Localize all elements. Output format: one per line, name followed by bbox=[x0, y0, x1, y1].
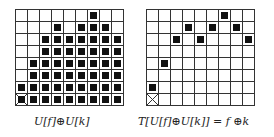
grid-cell-filled bbox=[183, 22, 195, 34]
grid-cell-filled bbox=[88, 46, 100, 58]
grid-cell bbox=[52, 10, 64, 22]
grid-cell bbox=[112, 10, 124, 22]
grid-cell bbox=[159, 46, 171, 58]
grid-cell-filled bbox=[100, 82, 112, 94]
grid-cell-filled bbox=[112, 58, 124, 70]
grid-cell bbox=[171, 22, 183, 34]
grid-cell bbox=[112, 22, 124, 34]
grid-cell-filled bbox=[76, 58, 88, 70]
grid-cell bbox=[195, 22, 207, 34]
grid-cell bbox=[207, 70, 219, 82]
grid-cell bbox=[183, 46, 195, 58]
grid-cell-filled bbox=[88, 70, 100, 82]
grid-cell bbox=[207, 82, 219, 94]
grid-cell bbox=[183, 70, 195, 82]
grid-cell-filled bbox=[88, 34, 100, 46]
grid-cell-filled bbox=[28, 94, 40, 106]
grid-cell bbox=[207, 94, 219, 106]
grid-cell bbox=[219, 58, 231, 70]
grid-cell bbox=[147, 46, 159, 58]
grid-cell bbox=[159, 34, 171, 46]
grid-cell bbox=[147, 58, 159, 70]
grid-cell bbox=[171, 46, 183, 58]
grid-cell bbox=[159, 22, 171, 34]
grid-cell-crossed bbox=[147, 94, 159, 106]
grid-cell bbox=[16, 22, 28, 34]
grid-cell bbox=[195, 46, 207, 58]
cross-mark-icon bbox=[147, 94, 158, 105]
grid-cell-filled bbox=[52, 46, 64, 58]
grid-cell-filled bbox=[159, 58, 171, 70]
grid-cell-filled bbox=[40, 58, 52, 70]
grid-cell bbox=[195, 58, 207, 70]
grid-cell-filled bbox=[52, 70, 64, 82]
grid-cell-filled bbox=[64, 34, 76, 46]
grid-cell bbox=[183, 58, 195, 70]
grid-cell-filled bbox=[52, 22, 64, 34]
grid-cell-filled bbox=[64, 46, 76, 58]
grid-cell bbox=[171, 58, 183, 70]
grid-cell bbox=[16, 70, 28, 82]
grid-cell bbox=[159, 94, 171, 106]
grid-cell-filled bbox=[171, 34, 183, 46]
grid-cell bbox=[16, 46, 28, 58]
grid-cell bbox=[231, 58, 243, 70]
grid-cell-filled bbox=[16, 82, 28, 94]
grid-cell-filled bbox=[28, 82, 40, 94]
grid-cell-filled bbox=[88, 94, 100, 106]
grid-cell bbox=[243, 70, 255, 82]
grid-cell-filled bbox=[100, 22, 112, 34]
grid-cell-filled bbox=[40, 34, 52, 46]
grid-cell bbox=[231, 82, 243, 94]
grid-cell bbox=[219, 94, 231, 106]
grid-cell bbox=[231, 10, 243, 22]
grid-cell bbox=[159, 82, 171, 94]
grid-cell-filled bbox=[112, 94, 124, 106]
grid-cell bbox=[231, 94, 243, 106]
grid-cell-filled bbox=[195, 34, 207, 46]
grid-cell bbox=[171, 82, 183, 94]
grid-cell-filled bbox=[88, 22, 100, 34]
grid-cell-filled bbox=[112, 70, 124, 82]
grid-cell bbox=[64, 22, 76, 34]
grid-cell bbox=[243, 58, 255, 70]
grid-cell bbox=[171, 70, 183, 82]
grid-cell-filled bbox=[231, 22, 243, 34]
grid-cell bbox=[171, 10, 183, 22]
grid-cell bbox=[100, 10, 112, 22]
grid-cell-filled bbox=[76, 22, 88, 34]
grid-cell bbox=[231, 34, 243, 46]
grid-cell-filled bbox=[76, 34, 88, 46]
grid-cell-crossed bbox=[16, 94, 28, 106]
grid-cell-filled bbox=[207, 22, 219, 34]
grid-cell bbox=[147, 70, 159, 82]
grid-cell bbox=[243, 82, 255, 94]
grid-cell bbox=[195, 94, 207, 106]
grid-cell bbox=[195, 10, 207, 22]
grid-cell-filled bbox=[64, 82, 76, 94]
grid-cell-filled bbox=[40, 94, 52, 106]
grid-cell-filled bbox=[76, 46, 88, 58]
grid-cell-filled bbox=[88, 58, 100, 70]
left-grid-u-f-oplus-u-k bbox=[15, 9, 124, 106]
grid-cell-filled bbox=[52, 82, 64, 94]
grid-cell bbox=[219, 70, 231, 82]
grid-cell-filled bbox=[40, 70, 52, 82]
grid-cell bbox=[16, 58, 28, 70]
grid-cell bbox=[16, 10, 28, 22]
grid-cell bbox=[40, 22, 52, 34]
grid-cell-filled bbox=[28, 58, 40, 70]
right-grid-caption: T[U[f]⊕U[k]] = f ⊕k bbox=[138, 115, 249, 128]
grid-cell-filled bbox=[28, 70, 40, 82]
grid-cell bbox=[159, 10, 171, 22]
grid-cell bbox=[64, 10, 76, 22]
grid-cell bbox=[28, 10, 40, 22]
grid-cell bbox=[231, 70, 243, 82]
grid-cell-filled bbox=[40, 46, 52, 58]
grid-cell-filled bbox=[52, 58, 64, 70]
grid-cell bbox=[183, 82, 195, 94]
grid-cell-filled bbox=[219, 10, 231, 22]
grid-cell bbox=[159, 70, 171, 82]
grid-cell bbox=[207, 58, 219, 70]
grid-cell bbox=[147, 10, 159, 22]
